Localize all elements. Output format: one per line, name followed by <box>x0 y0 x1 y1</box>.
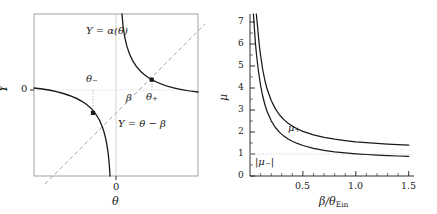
theta-plus-label: θ+ <box>146 92 158 103</box>
alpha-curve-lower-branch <box>34 88 110 176</box>
beta-label: β <box>126 93 132 103</box>
source-line-curve <box>45 24 205 184</box>
figure-container: Y 0 0 θ Y = α(θ) Y = θ − β θ− θ+ β <box>0 0 437 214</box>
magnification-panel: 0 1 2 3 4 5 6 7 0.5 1.0 1.5 μ β/θEin μ+ … <box>218 0 437 214</box>
ein-subscript: Ein <box>336 200 349 209</box>
mu-y-axis-label: μ <box>218 94 229 101</box>
left-x-axis-label: θ <box>112 196 119 207</box>
mu-x-tick-1p5: 1.5 <box>401 181 416 191</box>
mu-x-axis-label: β/θEin <box>319 196 348 208</box>
mu-minus-label: |μ−| <box>255 157 274 168</box>
source-line-label: Y = θ − β <box>118 119 166 129</box>
mu-plus-label: μ+ <box>288 123 300 134</box>
left-x-tick-0: 0 <box>113 182 119 192</box>
mu-y-tick-6: 6 <box>238 39 244 48</box>
mu-x-tick-0p5: 0.5 <box>295 181 310 191</box>
mu-minus-closing-bar: | <box>271 156 274 167</box>
mu-x-major-ticks <box>303 171 409 176</box>
mu-minus-symbol: |μ <box>255 156 265 167</box>
mu-plus-curve <box>256 14 408 145</box>
alpha-curve-upper-branch <box>122 14 198 92</box>
theta-plus-subscript: + <box>152 95 158 103</box>
theta-minus-subscript: − <box>92 77 98 85</box>
left-y-axis-label: Y <box>0 84 9 93</box>
mu-y-tick-3: 3 <box>238 105 244 114</box>
theta-minus-label: θ− <box>86 74 98 85</box>
mu-y-tick-1: 1 <box>238 149 244 158</box>
mu-minus-curve <box>253 14 408 156</box>
theta-plus-marker <box>150 78 154 82</box>
mu-x-tick-1p0: 1.0 <box>348 181 363 191</box>
mu-y-tick-2: 2 <box>238 127 244 136</box>
lens-equation-panel: Y 0 0 θ Y = α(θ) Y = θ − β θ− θ+ β <box>0 0 218 214</box>
theta-symbol: θ <box>329 195 336 208</box>
alpha-curve-label: Y = α(θ) <box>86 26 128 36</box>
mu-y-tick-5: 5 <box>238 61 244 70</box>
mu-plus-subscript: + <box>295 126 301 134</box>
left-y-tick-0: 0 <box>21 84 27 94</box>
mu-y-tick-0: 0 <box>238 171 244 180</box>
mu-y-tick-4: 4 <box>238 83 244 92</box>
theta-minus-marker <box>91 111 95 115</box>
mu-y-tick-7: 7 <box>238 17 244 26</box>
